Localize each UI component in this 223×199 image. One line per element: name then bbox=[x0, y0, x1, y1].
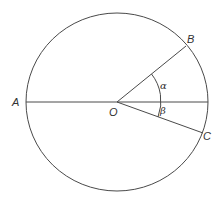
label-o: O bbox=[109, 106, 118, 118]
circle-diagram: A B C O α β bbox=[0, 0, 223, 199]
label-alpha: α bbox=[160, 80, 167, 91]
label-c: C bbox=[203, 130, 211, 142]
label-b: B bbox=[187, 33, 194, 45]
label-beta: β bbox=[159, 105, 166, 116]
label-a: A bbox=[11, 96, 19, 108]
